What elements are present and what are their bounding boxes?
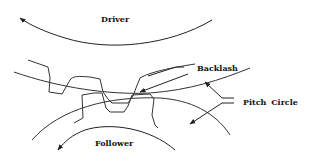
pitch-circle-label: Pitch Circle — [243, 98, 298, 106]
driver-label: Driver — [101, 15, 129, 23]
pitch-circle-leader-upper — [205, 82, 234, 98]
backlash-label: Backlash — [197, 64, 238, 72]
follower-pitch-circle — [32, 98, 230, 140]
backlash-leader — [148, 67, 184, 76]
gear-diagram — [0, 0, 315, 161]
driver-gear-teeth — [28, 60, 195, 103]
follower-label: Follower — [95, 139, 133, 147]
